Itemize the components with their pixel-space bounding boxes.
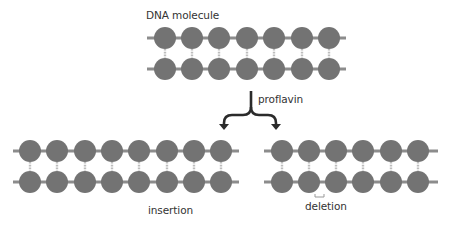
nucleotide-base (154, 58, 176, 80)
nucleotide-base (263, 27, 285, 49)
dna-molecule-original (147, 27, 346, 80)
nucleotide-base (318, 58, 340, 80)
nucleotide-base (236, 27, 258, 49)
nucleotide-base (156, 171, 178, 193)
nucleotide-base (181, 27, 203, 49)
nucleotide-base (101, 171, 123, 193)
nucleotide-base (291, 58, 313, 80)
nucleotide-base (46, 140, 68, 162)
nucleotide-base (380, 171, 402, 193)
title-label: DNA molecule (146, 9, 219, 21)
nucleotide-base (74, 171, 96, 193)
nucleotide-base (101, 140, 123, 162)
insertion-label: insertion (148, 204, 193, 216)
deletion-gap-marker (315, 194, 324, 197)
nucleotide-base (271, 140, 293, 162)
nucleotide-base (128, 140, 150, 162)
nucleotide-base (325, 140, 347, 162)
nucleotide-base (154, 27, 176, 49)
nucleotide-base (407, 171, 429, 193)
nucleotide-base (208, 58, 230, 80)
nucleotide-base (298, 171, 320, 193)
dna-molecule-insertion (13, 140, 239, 193)
nucleotide-base (19, 171, 41, 193)
nucleotide-base (19, 140, 41, 162)
nucleotide-base (128, 171, 150, 193)
nucleotide-base (407, 140, 429, 162)
nucleotide-base (183, 171, 205, 193)
nucleotide-base (181, 58, 203, 80)
dna-molecules (13, 27, 438, 193)
dna-molecule-deletion (264, 140, 438, 193)
deletion-label: deletion (305, 200, 347, 212)
nucleotide-base (183, 140, 205, 162)
nucleotide-base (208, 27, 230, 49)
nucleotide-base (380, 140, 402, 162)
nucleotide-base (318, 27, 340, 49)
nucleotide-base (263, 58, 285, 80)
nucleotide-base (352, 171, 374, 193)
nucleotide-base (352, 140, 374, 162)
proflavin-label: proflavin (258, 93, 303, 105)
nucleotide-base (271, 171, 293, 193)
nucleotide-base (210, 171, 232, 193)
diagram-canvas (0, 0, 457, 226)
nucleotide-base (46, 171, 68, 193)
nucleotide-base (210, 140, 232, 162)
nucleotide-base (298, 140, 320, 162)
nucleotide-base (291, 27, 313, 49)
nucleotide-base (156, 140, 178, 162)
nucleotide-base (74, 140, 96, 162)
nucleotide-base (236, 58, 258, 80)
nucleotide-base (325, 171, 347, 193)
